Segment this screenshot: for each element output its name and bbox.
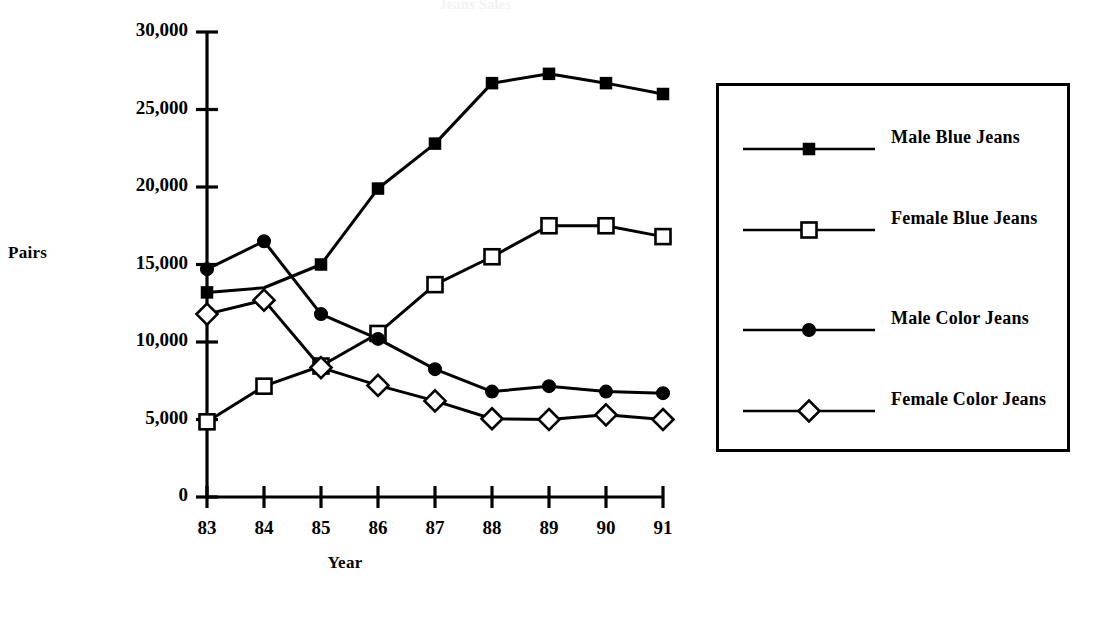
data-point [653,409,674,430]
series-group [197,68,674,430]
legend-label: Male Color Jeans [891,305,1063,331]
data-point [202,287,213,298]
data-point [485,249,500,264]
legend-marker-filled-circle-icon [741,318,877,342]
data-point [596,404,617,425]
data-point [201,263,214,276]
data-point [544,68,555,79]
data-point [258,235,271,248]
data-point [316,259,327,270]
data-point [430,138,441,149]
data-point [482,408,503,429]
legend-marker-open-square-icon [741,218,877,242]
data-point [372,333,385,346]
legend-label: Female Color Jeans [891,386,1063,412]
data-point [600,385,613,398]
series-male-color-jeans [201,235,670,400]
data-point [428,277,443,292]
data-point [315,308,328,321]
legend: Male Blue JeansFemale Blue JeansMale Col… [716,83,1070,452]
data-point [543,380,556,393]
data-point [539,409,560,430]
data-point [656,229,671,244]
legend-marker-filled-square-icon [741,137,877,161]
legend-label: Female Blue Jeans [891,205,1063,231]
legend-marker-open-diamond-icon [741,399,877,423]
data-point [599,218,614,233]
data-point [368,375,389,396]
data-point [658,89,669,100]
series-female-color-jeans [197,290,674,430]
data-point [429,363,442,376]
legend-label: Male Blue Jeans [891,124,1063,150]
data-point [542,218,557,233]
data-point [425,390,446,411]
data-point [601,78,612,89]
data-point [200,414,215,429]
series-male-blue-jeans [202,68,669,298]
data-point [486,385,499,398]
axes-group [196,32,663,508]
data-point [657,387,670,400]
data-point [487,78,498,89]
data-point [197,304,218,325]
chart-page: Jeans Sales Pairs Year 05,00010,00015,00… [0,0,1099,618]
data-point [373,183,384,194]
data-point [257,379,272,394]
